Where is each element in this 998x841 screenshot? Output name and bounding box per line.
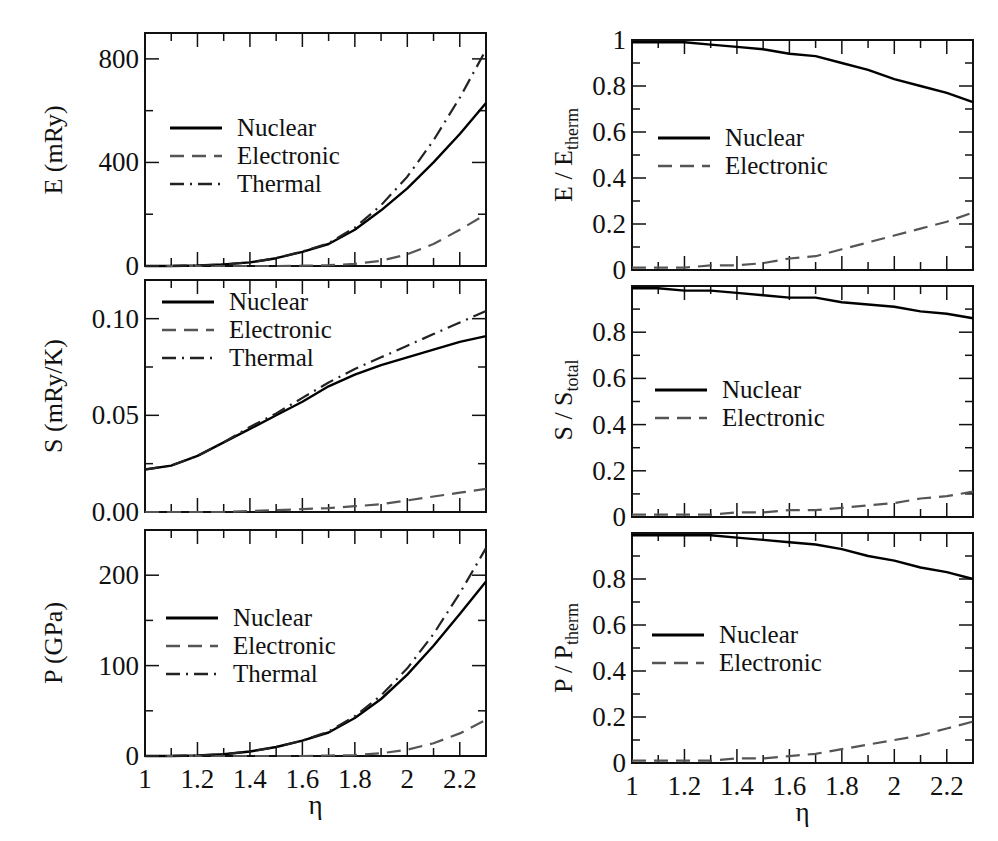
legend-label-electronic: Electronic (233, 632, 336, 659)
chart-panel-top-left: 0400800E (mRy)NuclearElectronicThermal (39, 33, 486, 281)
chart-panel-middle-left: 0.000.050.10S (mRy/K)NuclearElectronicTh… (39, 280, 486, 527)
x-tick-label: 1.4 (233, 764, 267, 794)
legend-label-thermal: Thermal (237, 170, 322, 197)
y-tick-label: 0.8 (592, 317, 626, 347)
y-axis-label: S / Stotal (549, 359, 582, 440)
y-tick-label: 100 (99, 651, 140, 681)
series-nuclear-line (632, 535, 973, 579)
y-tick-label: 0.4 (592, 163, 626, 193)
legend-label-nuclear: Nuclear (722, 376, 802, 403)
series-electronic-line (145, 720, 486, 756)
y-tick-label: 0.2 (592, 702, 626, 732)
x-axis-label: η (308, 790, 322, 820)
y-tick-label: 1 (613, 25, 627, 55)
y-tick-label: 0 (613, 502, 627, 532)
x-tick-label: 1.2 (668, 771, 702, 801)
x-tick-label: 2.2 (443, 764, 477, 794)
y-tick-label: 0.00 (92, 497, 139, 527)
series-electronic-line (632, 492, 973, 515)
y-tick-label: 0.6 (592, 117, 626, 147)
x-axis-label: η (795, 797, 809, 827)
legend-label-electronic: Electronic (237, 142, 340, 169)
series-electronic-line (632, 722, 973, 761)
legend-label-nuclear: Nuclear (725, 124, 805, 151)
x-tick-label: 1 (138, 764, 152, 794)
series-electronic-line (145, 214, 486, 266)
y-tick-label: 0.6 (592, 610, 626, 640)
y-axis-label: P / Ptherm (549, 603, 582, 693)
legend-label-thermal: Thermal (233, 660, 318, 687)
figure-canvas: 0400800E (mRy)NuclearElectronicThermal00… (0, 0, 998, 841)
legend-label-electronic: Electronic (229, 316, 332, 343)
series-nuclear-line (632, 288, 973, 318)
x-tick-label: 1.4 (720, 771, 754, 801)
y-axis-label: P (GPa) (39, 602, 68, 684)
y-tick-label: 400 (99, 147, 140, 177)
legend-label-nuclear: Nuclear (719, 621, 799, 648)
y-axis-label: E (mRy) (39, 105, 68, 194)
y-tick-label: 0.4 (592, 410, 626, 440)
chart-panel-bottom-left: 010020011.21.41.61.822.2ηP (GPa)NuclearE… (39, 530, 486, 820)
y-tick-label: 0.10 (92, 304, 139, 334)
x-tick-label: 1 (625, 771, 639, 801)
y-tick-label: 0 (613, 748, 627, 778)
x-tick-label: 2 (401, 764, 415, 794)
chart-panel-middle-right: 00.20.40.60.8S / StotalNuclearElectronic (549, 286, 973, 532)
legend-label-nuclear: Nuclear (229, 288, 309, 315)
y-axis-label: S (mRy/K) (39, 339, 68, 453)
legend-label-thermal: Thermal (229, 344, 314, 371)
series-electronic-line (145, 489, 486, 512)
chart-panel-bottom-right: 00.20.40.60.811.21.41.61.822.2ηP / Pther… (549, 533, 973, 827)
y-tick-label: 0.4 (592, 656, 626, 686)
legend-label-electronic: Electronic (719, 649, 822, 676)
y-tick-label: 0.8 (592, 71, 626, 101)
legend-label-electronic: Electronic (722, 404, 825, 431)
plot-frame (145, 280, 486, 512)
series-electronic-line (632, 213, 973, 268)
series-nuclear-line (632, 42, 973, 102)
y-axis-label: E / Etherm (549, 108, 582, 202)
y-tick-label: 0.6 (592, 363, 626, 393)
y-tick-label: 0 (613, 255, 627, 285)
x-tick-label: 2 (888, 771, 902, 801)
legend-label-nuclear: Nuclear (233, 604, 313, 631)
legend-label-nuclear: Nuclear (237, 114, 317, 141)
y-tick-label: 0.2 (592, 209, 626, 239)
y-tick-label: 0 (126, 741, 140, 771)
plot-frame (632, 286, 973, 517)
x-tick-label: 1.8 (338, 764, 372, 794)
y-tick-label: 0 (126, 251, 140, 281)
legend-label-electronic: Electronic (725, 152, 828, 179)
y-tick-label: 800 (99, 44, 140, 74)
y-tick-label: 0.8 (592, 564, 626, 594)
chart-panel-top-right: 00.20.40.60.81E / EthermNuclearElectroni… (549, 25, 973, 285)
x-tick-label: 1.8 (825, 771, 859, 801)
series-nuclear-line (145, 336, 486, 469)
y-tick-label: 200 (99, 560, 140, 590)
y-tick-label: 0.2 (592, 456, 626, 486)
x-tick-label: 2.2 (930, 771, 964, 801)
y-tick-label: 0.05 (92, 400, 139, 430)
x-tick-label: 1.2 (181, 764, 215, 794)
